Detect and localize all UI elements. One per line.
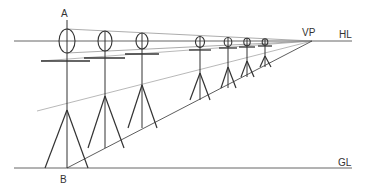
stick-figure-2 <box>84 31 125 148</box>
left-leg <box>45 110 67 168</box>
right-leg <box>228 67 236 88</box>
left-leg <box>190 73 200 100</box>
left-leg <box>128 85 142 128</box>
label-horizon-line: HL <box>339 30 352 40</box>
right-leg <box>105 96 124 148</box>
guide-hips <box>37 41 312 111</box>
left-leg <box>241 61 247 77</box>
label-point-a: A <box>61 9 68 19</box>
label-ground-line: GL <box>338 158 351 168</box>
guide-arms <box>41 41 312 61</box>
right-leg <box>200 73 210 100</box>
label-point-b: B <box>60 175 67 185</box>
label-vanishing-point: VP <box>302 28 315 38</box>
right-leg <box>142 85 157 128</box>
right-leg <box>265 56 271 67</box>
guide-feet <box>67 41 312 168</box>
stick-figure-3 <box>125 33 159 128</box>
perspective-diagram: A B VP HL GL <box>0 0 368 190</box>
right-leg <box>67 110 88 168</box>
perspective-guides <box>14 29 352 168</box>
stick-figure-1 <box>41 20 90 168</box>
stick-figures <box>41 20 272 168</box>
left-leg <box>88 96 105 148</box>
